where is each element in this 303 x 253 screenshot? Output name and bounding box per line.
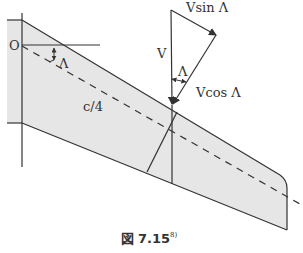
vector-angle-label: Λ xyxy=(177,64,188,79)
caption-prefix: 図 xyxy=(121,231,134,246)
sweep-angle-label: Λ xyxy=(58,56,69,71)
v-cos-label: Vcos Λ xyxy=(195,85,241,100)
caption-number: 7.15 xyxy=(138,231,170,246)
velocity-vector xyxy=(171,10,172,104)
origin-label: O xyxy=(9,38,20,53)
swept-wing-diagram: O Λ c/4 V Vsin Λ Λ Vcos Λ 図 7.15 8) xyxy=(0,0,303,253)
caption-reference: 8) xyxy=(170,231,177,239)
fuselage-region xyxy=(7,20,22,123)
quarter-chord-label: c/4 xyxy=(83,99,103,114)
vector-angle-arrow xyxy=(172,79,186,82)
wing-planform xyxy=(22,20,287,230)
velocity-label: V xyxy=(156,46,167,61)
v-sin-label: Vsin Λ xyxy=(185,0,229,15)
